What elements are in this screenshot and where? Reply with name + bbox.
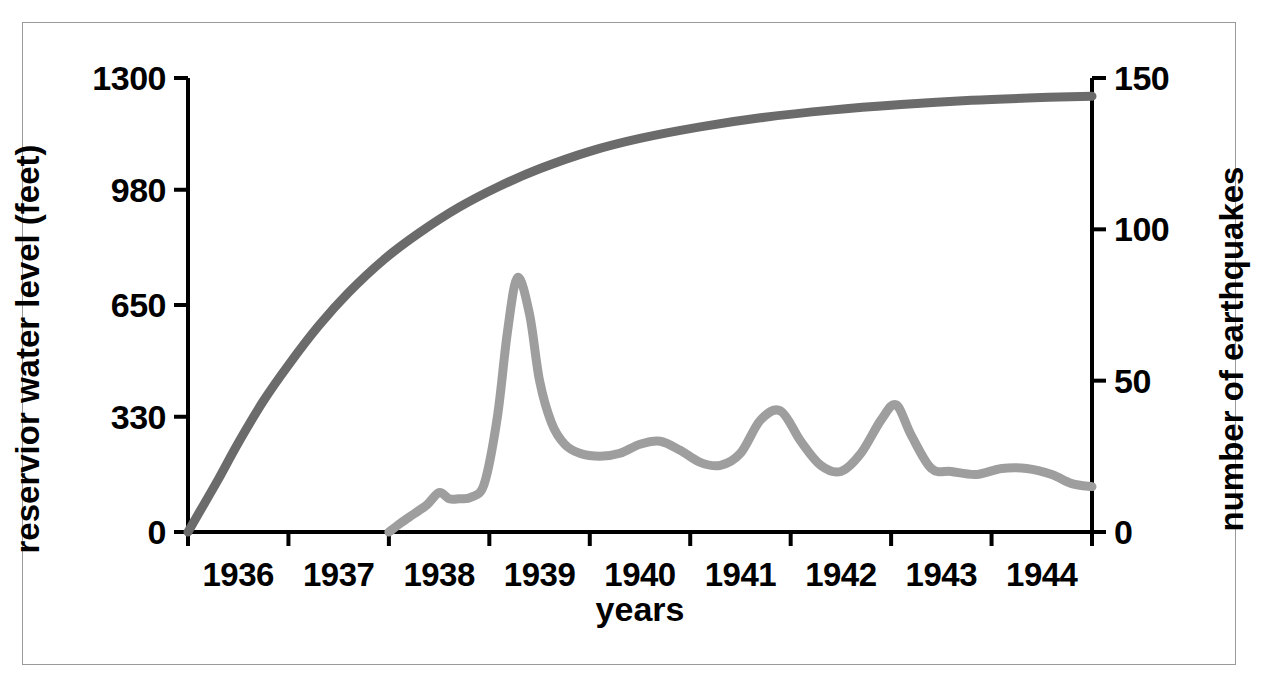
- x-tick-label-1941: 1941: [705, 556, 776, 594]
- left-tick-label-0: 0: [148, 513, 166, 552]
- x-tick-label-1942: 1942: [805, 556, 876, 594]
- left-tick-label-980: 980: [111, 170, 166, 209]
- x-tick-label-1939: 1939: [504, 556, 575, 594]
- right-axis-group: [1092, 78, 1106, 532]
- chart-figure: 03306509801300 050100150 193619371938193…: [0, 0, 1266, 697]
- left-tick-label-330: 330: [111, 397, 166, 436]
- x-tick-label-1936: 1936: [203, 556, 274, 594]
- x-tick-label-1937: 1937: [303, 556, 374, 594]
- series-line-number-of-earthquakes: [389, 277, 1092, 532]
- x-axis-group: [188, 532, 1092, 546]
- left-axis-title-text: reservior water level (feet): [9, 144, 47, 553]
- right-tick-label-100: 100: [1114, 210, 1169, 249]
- series-line-reservoir-water-level: [188, 96, 1092, 532]
- left-axis-group: [174, 78, 188, 532]
- x-tick-label-1938: 1938: [403, 556, 474, 594]
- right-axis-title-text: number of earthquakes: [1213, 166, 1251, 531]
- left-tick-label-1300: 1300: [92, 59, 166, 98]
- right-tick-label-0: 0: [1114, 513, 1132, 552]
- left-tick-label-650: 650: [111, 286, 166, 325]
- x-tick-label-1943: 1943: [906, 556, 977, 594]
- x-axis-title: years: [596, 590, 685, 629]
- x-tick-label-1940: 1940: [604, 556, 675, 594]
- right-tick-label-50: 50: [1114, 361, 1151, 400]
- right-tick-label-150: 150: [1114, 59, 1169, 98]
- x-tick-label-1944: 1944: [1006, 556, 1077, 594]
